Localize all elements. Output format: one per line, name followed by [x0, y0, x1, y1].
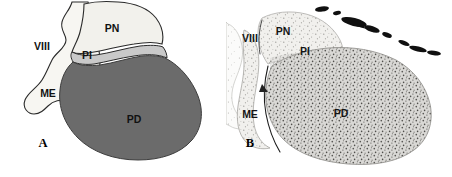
label-pi-panel-b: PI — [300, 45, 310, 57]
panel-letter-b: B — [246, 136, 254, 150]
figure-container: VIII PN PI ME PD A — [0, 0, 452, 177]
label-viii-panel-b: VIII — [242, 32, 258, 44]
label-me-panel-a: ME — [40, 87, 56, 99]
label-pn-panel-a: PN — [105, 22, 120, 34]
label-pn-panel-b: PN — [276, 25, 291, 37]
label-pd-panel-a: PD — [127, 113, 142, 125]
panel-b-micrograph: VIII PN PI ME PD B — [226, 0, 452, 177]
label-viii-panel-a: VIII — [34, 40, 50, 52]
label-pd-panel-b: PD — [334, 107, 349, 119]
label-pi-panel-a: PI — [82, 49, 92, 61]
label-me-panel-b: ME — [242, 108, 258, 120]
panel-a-schematic: VIII PN PI ME PD A — [0, 0, 226, 177]
panel-letter-a: A — [38, 136, 47, 150]
